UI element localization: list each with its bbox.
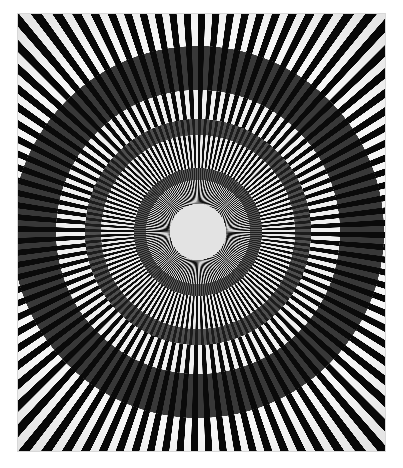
artwork-description: Radiating black and white wedges emanati… [0, 0, 1, 1]
artwork-title: Concentric Radial Burst [0, 0, 1, 1]
artwork-stage: Concentric Radial Burst Op-art geometric… [0, 0, 403, 468]
radial-burst-canvas [18, 14, 385, 451]
artwork-frame [18, 14, 385, 451]
artwork-medium: Op-art geometric composition [0, 0, 1, 1]
